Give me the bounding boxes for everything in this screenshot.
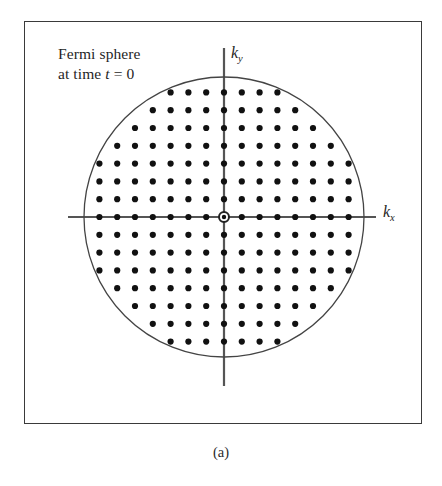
figure-container: Fermi sphere at time t = 0 ky kx (a) <box>0 0 442 486</box>
annotation-line-2-prefix: at time <box>58 65 105 82</box>
figure-caption: (a) <box>0 444 442 461</box>
y-axis-label-subscript: y <box>238 53 243 64</box>
annotation-line-2-suffix: = 0 <box>110 65 135 82</box>
annotation-line-1: Fermi sphere <box>58 44 141 64</box>
x-axis-label: kx <box>383 203 395 223</box>
origin-marker <box>219 212 229 222</box>
annotation-line-2: at time t = 0 <box>58 64 141 84</box>
y-axis-label: ky <box>231 44 243 64</box>
x-axis-label-subscript: x <box>390 212 395 223</box>
fermi-sphere-annotation: Fermi sphere at time t = 0 <box>58 44 141 85</box>
